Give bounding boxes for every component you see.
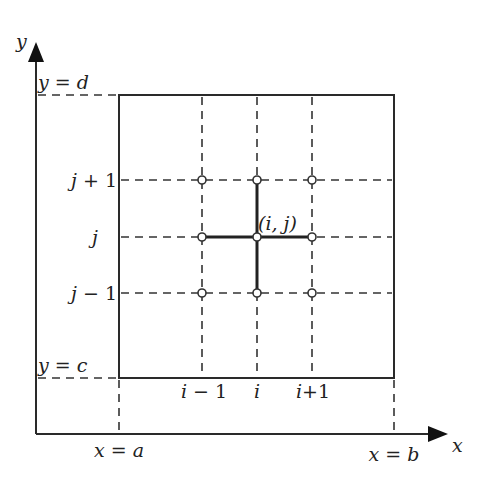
- bottom-boundary-label: y = c: [37, 354, 88, 376]
- grid-node: [198, 289, 206, 297]
- y-axis-arrow-icon: [28, 42, 44, 62]
- x-axis-arrow-icon: [428, 426, 448, 442]
- grid-node: [198, 176, 206, 184]
- grid-node: [308, 289, 316, 297]
- finite-difference-grid-diagram: y x y = d y = c x = a x = b j + 1 j j − …: [0, 0, 478, 480]
- row-label-j-plus-1: j + 1: [67, 169, 117, 191]
- x-axis-label: x: [452, 434, 463, 456]
- y-axis-label: y: [15, 30, 27, 52]
- coordinate-axes: [28, 42, 448, 442]
- center-node-label: (i, j): [258, 212, 297, 234]
- grid-node: [308, 176, 316, 184]
- grid-node: [308, 233, 316, 241]
- column-label-i: i: [254, 380, 260, 402]
- row-label-j-minus-1: j − 1: [67, 282, 117, 304]
- row-label-j: j: [88, 226, 98, 248]
- column-label-i-plus-1: i+1: [296, 380, 330, 402]
- top-boundary-label: y = d: [37, 71, 89, 93]
- left-boundary-label: x = a: [94, 439, 144, 461]
- center-node: [253, 233, 261, 241]
- column-label-i-minus-1: i − 1: [181, 380, 227, 402]
- grid-node: [253, 289, 261, 297]
- grid-node: [198, 233, 206, 241]
- right-boundary-label: x = b: [369, 443, 420, 465]
- grid-node: [253, 176, 261, 184]
